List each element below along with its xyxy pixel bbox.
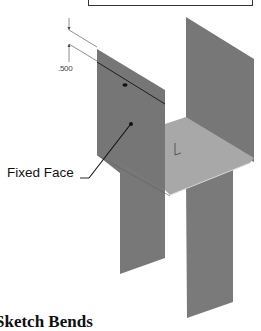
sketch-point	[122, 83, 127, 87]
extension-line-top	[69, 30, 97, 47]
extension-line-bottom	[69, 44, 97, 61]
section-caption: Sketch Bends	[0, 312, 93, 331]
arrowhead-top-icon	[68, 27, 71, 30]
fixed-face-dot	[129, 122, 133, 126]
dimension-value: .500	[58, 64, 72, 73]
right-flange-lower	[186, 166, 233, 318]
fixed-face-label: Fixed Face	[7, 165, 74, 180]
